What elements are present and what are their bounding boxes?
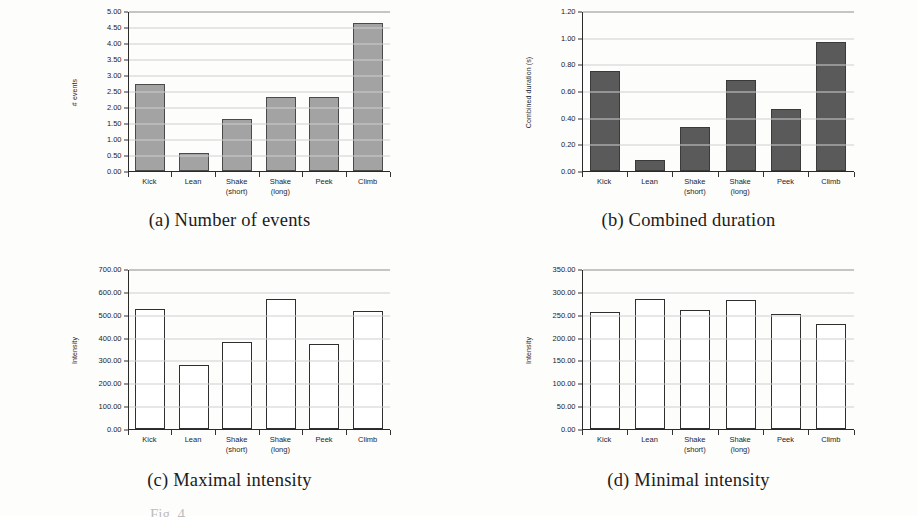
y-tick-label: 600.00 [99,289,122,297]
y-tick-label: 200.00 [553,335,576,343]
x-label-sub: (short) [672,187,717,197]
y-tick-label: 0.50 [107,152,122,160]
panel-caption-a: (a) Number of events [149,210,311,231]
y-tick-label: 4.50 [107,24,122,32]
y-tick-label: 350.00 [553,266,576,274]
y-tick-label: 1.50 [107,120,122,128]
x-axis-labels-a: KickLeanShake(short)Shake(long)PeekClimb [128,177,390,196]
grid-line [129,156,390,157]
grid-line [583,407,854,408]
x-axis-category-label: Climb [808,177,853,196]
grid-line [129,12,390,13]
y-axis-label-c: Intensity [68,270,82,430]
plot-area-a [128,12,390,172]
y-tick-label: 2.00 [107,104,122,112]
x-label-main: Shake [730,177,751,186]
y-tick-label: 0.40 [561,115,576,123]
y-tick-label: 500.00 [99,312,122,320]
y-tick-label: 300.00 [99,358,122,366]
x-axis-category-label: Climb [808,435,853,454]
x-label-main: Shake [226,177,247,186]
grid-line [129,315,390,316]
grid-line [583,361,854,362]
grid-line [583,118,854,119]
y-tick-label: 1.00 [107,136,122,144]
grid-line [129,108,390,109]
grid-line [129,76,390,77]
x-axis-category-label: Lean [171,435,215,454]
grid-line [129,338,390,339]
x-label-sub: (long) [259,187,303,197]
x-axis-category-label: Lean [171,177,215,196]
x-axis-labels-d: KickLeanShake(short)Shake(long)PeekClimb [582,435,854,454]
panel-caption-d: (d) Minimal intensity [607,470,769,491]
bar [590,71,620,171]
x-axis-category-label: Kick [582,177,627,196]
y-tick-label: 0.00 [107,426,122,434]
x-axis-labels-c: KickLeanShake(short)Shake(long)PeekClimb [128,435,390,454]
grid-line [583,145,854,146]
y-tick-label: 1.20 [561,8,576,16]
x-label-main: Shake [684,177,705,186]
x-axis-category-label: Climb [346,435,390,454]
figure-number-label: Fig. 4. [150,506,189,517]
x-axis-category-label: Shake(short) [215,435,259,454]
x-axis-category-label: Peek [302,435,346,454]
bar [266,299,296,429]
y-tick-label: 400.00 [99,335,122,343]
x-label-main: Peek [315,177,332,186]
bar [179,365,209,429]
x-label-main: Kick [597,177,611,186]
grid-line [583,315,854,316]
x-label-main: Shake [270,435,291,444]
x-axis-labels-b: KickLeanShake(short)Shake(long)PeekClimb [582,177,854,196]
x-label-main: Lean [641,435,658,444]
bar [635,160,665,171]
x-label-main: Climb [821,177,840,186]
x-axis-category-label: Lean [627,177,672,196]
grid-line [583,12,854,13]
grid-line [129,28,390,29]
chart-panel-b: Combined duration (s) 1.201.000.800.600.… [459,0,918,258]
y-axis-ticks-c: 700.00600.00500.00400.00300.00200.00100.… [84,270,128,430]
grid-line [583,92,854,93]
x-axis-category-label: Shake(long) [259,177,303,196]
x-label-main: Climb [358,177,377,186]
x-label-main: Shake [226,435,247,444]
bar [726,300,756,429]
x-tick-mark [390,172,391,177]
x-label-main: Lean [641,177,658,186]
y-tick-label: 0.20 [561,142,576,150]
x-label-sub: (long) [259,445,303,455]
bar [135,84,165,171]
x-axis-category-label: Peek [763,435,808,454]
x-axis-category-label: Shake(short) [215,177,259,196]
bar [222,342,252,429]
plot-area-c [128,270,390,430]
plot-area-b [582,12,854,172]
x-label-main: Lean [185,177,202,186]
x-axis-category-label: Shake(short) [672,435,717,454]
x-label-main: Climb [821,435,840,444]
bar [771,314,801,429]
x-label-sub: (short) [215,187,259,197]
bar [680,127,710,171]
bar-chart-d: Intensity 350.00300.00250.00200.00150.00… [524,270,854,460]
x-axis-category-label: Kick [128,435,172,454]
grid-line [129,124,390,125]
y-axis-ticks-d: 350.00300.00250.00200.00150.00100.0050.0… [538,270,582,430]
y-tick-label: 3.00 [107,72,122,80]
y-tick-label: 5.00 [107,8,122,16]
bar-chart-b: Combined duration (s) 1.201.000.800.600.… [524,12,854,202]
y-tick-label: 300.00 [553,289,576,297]
bar [222,119,252,171]
grid-line [583,292,854,293]
y-axis-label-a: # events [68,12,82,172]
x-axis-category-label: Kick [582,435,627,454]
y-axis-label-b: Combined duration (s) [522,12,536,172]
grid-line [129,292,390,293]
chart-panel-a: # events 5.004.504.003.503.002.502.001.5… [0,0,459,258]
x-label-sub: (long) [717,445,762,455]
grid-line [129,384,390,385]
